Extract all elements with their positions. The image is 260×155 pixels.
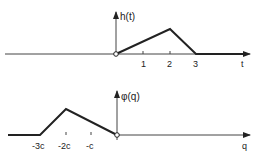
origin-open-circle [114,52,119,57]
y-axis-label: h(t) [120,11,135,22]
x-axis-label: t [241,59,244,69]
h-curve [116,29,245,54]
diagram: h(t) 1 2 3 t φ(q) -3c -2c -c q [0,0,260,155]
tick-label-minus-2c: -2c [58,141,71,151]
tick-label-1: 1 [141,59,146,69]
plot-phi-of-q: φ(q) -3c -2c -c q [8,91,250,151]
origin-open-circle [115,133,120,138]
phi-curve [8,109,117,135]
tick-label-3: 3 [193,59,198,69]
tick-label-minus-c: -c [86,141,94,151]
x-axis-label: q [242,141,247,151]
y-axis-label: φ(q) [121,91,140,102]
plot-h-of-t: h(t) 1 2 3 t [5,11,250,69]
tick-label-minus-3c: -3c [32,141,45,151]
tick-label-2: 2 [167,59,172,69]
